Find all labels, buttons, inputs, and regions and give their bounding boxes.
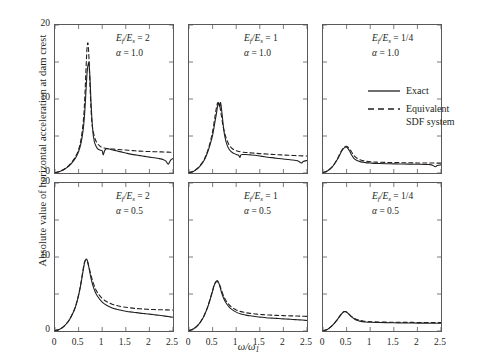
legend-label-exact: Exact [406, 84, 429, 97]
annotation-alpha-value: 0.5 [259, 206, 271, 216]
figure-root: Absolute value of horizontal acceleratio… [0, 0, 497, 364]
annotation-alpha-bottom-middle: α = 0.5 [244, 205, 278, 217]
x-tick-label-col1-0.5: 0.5 [65, 337, 91, 347]
annotation-modulus-ratio-top-right: Ef/Es = 1/4 [372, 32, 413, 47]
curve-bottom-right-equivalent-sdf [323, 311, 441, 330]
x-tick-label-col2-1: 1 [222, 337, 248, 347]
annotation-alpha-value: 0.5 [131, 206, 143, 216]
x-tick-label-col3-2.5: 2.5 [427, 337, 453, 347]
annotation-alpha-top-left: α = 1.0 [116, 47, 150, 59]
curve-top-right-exact [323, 147, 441, 173]
x-tick-label-col3-0.5: 0.5 [333, 337, 359, 347]
y-tick-label-row1-10: 10 [28, 92, 50, 102]
y-tick-label-row2-20: 20 [28, 176, 50, 186]
x-tick-label-col1-1.5: 1.5 [112, 337, 138, 347]
annotation-modulus-ratio-bottom-middle: Ef/Es = 1 [244, 190, 278, 205]
panel-annotation-top-middle: Ef/Es = 1α = 1.0 [244, 32, 278, 59]
panel-annotation-top-left: Ef/Es = 2α = 1.0 [116, 32, 150, 59]
curve-bottom-middle-exact [189, 281, 307, 331]
legend-item-equivalent-sdf: Equivalent SDF system [367, 102, 455, 128]
curve-bottom-left-exact [55, 259, 173, 331]
x-tick-label-col3-0: 0 [309, 337, 335, 347]
x-tick-label-col2-2: 2 [269, 337, 295, 347]
annotation-ratio-value: 1/4 [401, 33, 413, 43]
annotation-alpha-value: 1.0 [387, 48, 399, 58]
x-tick-label-col1-2: 2 [135, 337, 161, 347]
panel-annotation-top-right: Ef/Es = 1/4α = 1.0 [372, 32, 413, 59]
annotation-modulus-ratio-bottom-right: Ef/Es = 1/4 [372, 190, 413, 205]
x-tick-label-col2-1.5: 1.5 [246, 337, 272, 347]
x-tick-label-col2-0.5: 0.5 [199, 337, 225, 347]
x-tick-label-col3-1: 1 [356, 337, 382, 347]
annotation-modulus-ratio-bottom-left: Ef/Es = 2 [116, 190, 150, 205]
x-tick-label-col1-0: 0 [41, 337, 67, 347]
annotation-ratio-value: 1 [273, 191, 278, 201]
plot-panel-bottom-left [54, 182, 174, 332]
annotation-alpha-bottom-left: α = 0.5 [116, 205, 150, 217]
curve-top-right-equivalent-sdf [323, 146, 441, 172]
annotation-modulus-ratio-top-left: Ef/Es = 2 [116, 32, 150, 47]
annotation-alpha-top-right: α = 1.0 [372, 47, 413, 59]
panel-annotation-bottom-left: Ef/Es = 2α = 0.5 [116, 190, 150, 217]
panel-annotation-bottom-middle: Ef/Es = 1α = 0.5 [244, 190, 278, 217]
curve-top-middle-equivalent-sdf [189, 103, 307, 173]
curve-bottom-left-equivalent-sdf [55, 260, 173, 331]
annotation-ratio-value: 2 [145, 33, 150, 43]
curve-top-left-equivalent-sdf [55, 43, 173, 173]
legend-item-exact: Exact [367, 84, 455, 97]
annotation-alpha-value: 0.5 [387, 206, 399, 216]
annotation-alpha-top-middle: α = 1.0 [244, 47, 278, 59]
annotation-alpha-value: 1.0 [259, 48, 271, 58]
x-tick-label-col1-1: 1 [88, 337, 114, 347]
x-tick-label-col2-0: 0 [175, 337, 201, 347]
annotation-alpha-value: 1.0 [131, 48, 143, 58]
y-tick-label-row1-20: 20 [28, 18, 50, 28]
y-tick-label-row2-0: 0 [28, 324, 50, 334]
annotation-ratio-value: 1/4 [401, 191, 413, 201]
y-tick-label-row1-0: 0 [28, 166, 50, 176]
x-tick-label-col3-2: 2 [403, 337, 429, 347]
legend-key-solid-line [367, 84, 401, 96]
x-tick-label-col3-1.5: 1.5 [380, 337, 406, 347]
y-tick-label-row2-10: 10 [28, 250, 50, 260]
panel-annotation-bottom-right: Ef/Es = 1/4α = 0.5 [372, 190, 413, 217]
plot-panel-top-left [54, 24, 174, 174]
curve-top-left-exact [55, 63, 173, 173]
annotation-ratio-value: 2 [145, 191, 150, 201]
annotation-modulus-ratio-top-middle: Ef/Es = 1 [244, 32, 278, 47]
legend: Exact Equivalent SDF system [367, 84, 455, 133]
annotation-alpha-bottom-right: α = 0.5 [372, 205, 413, 217]
curve-bottom-middle-equivalent-sdf [189, 282, 307, 331]
curve-top-middle-exact [189, 102, 307, 172]
legend-label-equivalent-sdf: Equivalent SDF system [406, 102, 455, 128]
legend-key-dashed-line [367, 102, 401, 114]
annotation-ratio-value: 1 [273, 33, 278, 43]
